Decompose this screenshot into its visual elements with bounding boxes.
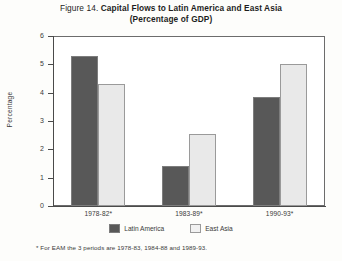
y-tick-mark	[48, 178, 53, 179]
y-tick-label: 5	[0, 60, 44, 67]
bar-east-asia-1990-93	[280, 64, 307, 206]
y-tick-label: 0	[0, 202, 44, 209]
y-tick-mark	[48, 206, 53, 207]
figure-subtitle: (Percentage of GDP)	[0, 14, 342, 25]
figure-footnote: * For EAM the 3 periods are 1978-83, 198…	[36, 244, 207, 251]
bar-latin-america-1990-93	[253, 97, 280, 206]
x-tick-label: 1990-93*	[240, 210, 320, 217]
y-tick-mark	[48, 149, 53, 150]
bar-east-asia-1983-89	[189, 134, 216, 206]
y-tick-label: 4	[0, 88, 44, 95]
y-tick-label: 3	[0, 117, 44, 124]
y-tick-label: 6	[0, 32, 44, 39]
y-tick-mark	[48, 64, 53, 65]
figure-title: Figure 14. Capital Flows to Latin Americ…	[0, 3, 342, 25]
figure-number: Figure 14.	[60, 3, 98, 13]
legend-item-east-asia: East Asia	[190, 224, 233, 233]
figure-container: Figure 14. Capital Flows to Latin Americ…	[0, 0, 342, 261]
legend-item-latin-america: Latin America	[109, 224, 164, 233]
y-tick-mark	[48, 36, 53, 37]
y-axis-line	[53, 36, 54, 207]
figure-title-text: Capital Flows to Latin America and East …	[101, 3, 282, 13]
x-tick-label: 1983-89*	[149, 210, 229, 217]
y-tick-label: 1	[0, 173, 44, 180]
bar-latin-america-1978-82	[71, 56, 98, 206]
legend-swatch-latin-america	[109, 224, 120, 233]
bar-east-asia-1978-82	[98, 84, 125, 206]
y-tick-label: 2	[0, 145, 44, 152]
legend-label-east-asia: East Asia	[205, 225, 233, 232]
y-tick-mark	[48, 93, 53, 94]
x-tick-label: 1978-82*	[58, 210, 138, 217]
y-tick-mark	[48, 121, 53, 122]
legend-label-latin-america: Latin America	[124, 225, 164, 232]
legend-swatch-east-asia	[190, 224, 201, 233]
chart-legend: Latin America East Asia	[0, 224, 342, 233]
bar-latin-america-1983-89	[162, 166, 189, 206]
figure-title-line-1: Figure 14. Capital Flows to Latin Americ…	[0, 3, 342, 14]
